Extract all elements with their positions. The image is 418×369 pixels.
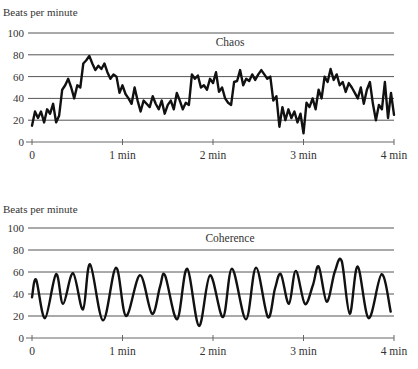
y-tick-label: 100 [8,27,25,39]
y-tick-label: 80 [13,244,25,256]
x-tick-label: 3 min [290,149,317,161]
y-tick-label: 60 [13,266,25,278]
coherence-y-ticks: 020406080100 [8,222,25,344]
y-tick-label: 20 [13,114,25,126]
y-tick-label: 0 [19,136,25,148]
chaos-chart: Beats per minute 020406080100 01 min2 mi… [3,6,408,161]
coherence-y-axis-label: Beats per minute [3,203,78,215]
chaos-title: Chaos [216,36,245,48]
x-tick-label: 0 [29,149,35,161]
x-tick-label: 4 min [381,149,408,161]
y-tick-label: 100 [8,222,25,234]
coherence-title: Coherence [205,232,254,244]
x-tick-label: 0 [29,345,35,357]
x-tick-label: 1 min [109,345,136,357]
chaos-y-ticks: 020406080100 [8,27,25,148]
coherence-chart: Beats per minute 020406080100 01 min2 mi… [3,203,408,357]
x-tick-label: 2 min [200,149,227,161]
chaos-y-axis-label: Beats per minute [3,6,78,18]
coherence-gridlines [26,228,394,338]
x-tick-label: 4 min [381,345,408,357]
y-tick-label: 20 [13,310,25,322]
y-tick-label: 40 [13,288,25,300]
x-tick-label: 1 min [109,149,136,161]
x-tick-label: 2 min [200,345,227,357]
chaos-line [32,56,394,133]
heart-rate-charts: Beats per minute 020406080100 01 min2 mi… [0,0,418,369]
y-tick-label: 0 [19,332,25,344]
y-tick-label: 80 [13,49,25,61]
y-tick-label: 60 [13,71,25,83]
x-tick-label: 3 min [290,345,317,357]
y-tick-label: 40 [13,92,25,104]
